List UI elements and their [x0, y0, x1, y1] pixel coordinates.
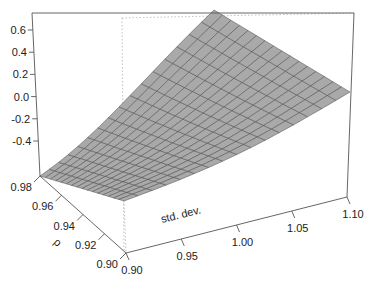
z-tick-label: 0.6	[11, 24, 26, 36]
rho-tick-label: 0.92	[75, 239, 96, 251]
std-dev-tick-label: 0.95	[177, 250, 198, 262]
surface-chart: -0.4-0.20.00.20.40.6 0.900.920.940.960.9…	[0, 0, 375, 284]
z-tick-label: 0.0	[14, 91, 29, 103]
z-axis: -0.4-0.20.00.20.40.6	[11, 24, 39, 147]
z-tick-label: 0.2	[13, 68, 28, 80]
std-dev-tick-label: 1.05	[287, 222, 308, 234]
z-tick-label: -0.2	[11, 113, 30, 125]
std-dev-tick-label: 1.10	[342, 208, 363, 220]
rho-tick-label: 0.94	[54, 220, 75, 232]
z-tick-label: -0.4	[12, 135, 31, 147]
surface-mesh	[40, 10, 350, 201]
std-dev-tick-label: 1.00	[232, 236, 253, 248]
rho-tick-label: 0.98	[11, 181, 32, 193]
rho-tick-label: 0.96	[32, 200, 53, 212]
std-dev-axis: 0.900.951.001.051.10	[121, 197, 363, 276]
rho-tick-label: 0.90	[97, 258, 118, 270]
y-axis-title: ρ	[52, 236, 65, 249]
std-dev-tick-label: 0.90	[121, 264, 142, 276]
z-tick-label: 0.4	[12, 46, 27, 58]
x-axis-title: std. dev.	[160, 203, 202, 225]
